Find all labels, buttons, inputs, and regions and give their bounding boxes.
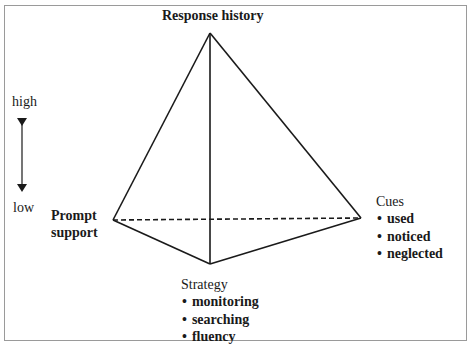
cues-list: used noticed neglected	[377, 210, 443, 263]
vertex-label-strategy: Strategy	[181, 276, 228, 293]
strategy-list: monitoring searching fluency	[182, 293, 259, 346]
cues-item: neglected	[377, 245, 443, 263]
strategy-item: fluency	[182, 328, 259, 346]
scale-high-label: high	[12, 93, 37, 110]
strategy-item: monitoring	[182, 293, 259, 311]
vertex-label-response-history: Response history	[162, 7, 264, 24]
vertex-label-prompt-line1: Prompt	[51, 207, 97, 224]
edge-top-right	[210, 33, 361, 218]
scale-low-label: low	[13, 199, 34, 216]
strategy-item: searching	[182, 311, 259, 329]
edge-left-bottom	[113, 220, 210, 264]
tetrahedron-edges	[113, 33, 361, 264]
edge-right-bottom	[210, 218, 361, 264]
edge-left-right-dashed	[113, 218, 361, 220]
vertex-label-cues: Cues	[376, 193, 404, 210]
vertex-label-prompt-line2: support	[51, 224, 98, 241]
cues-item: used	[377, 210, 443, 228]
cues-item: noticed	[377, 228, 443, 246]
edge-top-left	[113, 33, 210, 220]
